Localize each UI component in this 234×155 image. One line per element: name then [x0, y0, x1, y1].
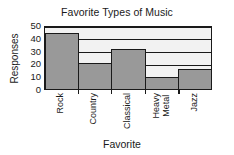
bar: [145, 77, 179, 89]
y-axis-tick-label: 20: [24, 59, 41, 69]
tick-mark: [111, 90, 112, 94]
y-axis-title: Responses: [9, 19, 20, 99]
x-axis-title: Favorite: [30, 138, 214, 150]
bar-series: [45, 27, 211, 89]
bar: [78, 63, 112, 89]
y-axis-tick-label: 40: [24, 34, 41, 44]
y-axis-tick-label: 50: [24, 21, 41, 31]
bar: [111, 49, 145, 89]
x-axis-tick-label: Rock: [56, 93, 66, 114]
x-axis-tick: Jazz: [178, 91, 212, 137]
chart-title: Favorite Types of Music: [0, 6, 234, 18]
plot-area: [44, 26, 212, 90]
x-axis-tick: Rock: [44, 91, 78, 137]
tick-mark: [78, 90, 79, 94]
tick-mark: [178, 90, 179, 94]
x-axis-tick-label: Jazz: [190, 93, 200, 112]
x-axis-tick-label: Heavy Metal: [152, 93, 171, 119]
x-axis-tick: Country: [78, 91, 112, 137]
x-axis-tick-label: Country: [89, 93, 99, 125]
y-axis-tick-label: 10: [24, 72, 41, 82]
x-axis-tick: Classical: [111, 91, 145, 137]
x-axis-tick-label: Classical: [123, 93, 133, 129]
bar: [178, 69, 212, 89]
tick-mark: [145, 90, 146, 94]
x-axis-tick-labels: RockCountryClassicalHeavy MetalJazz: [44, 91, 212, 137]
x-axis-tick: Heavy Metal: [145, 91, 179, 137]
y-axis-tick-label: 30: [24, 47, 41, 57]
y-axis-tick-label: 0: [24, 85, 41, 95]
bar: [45, 33, 79, 89]
y-axis-tick-labels: 01020304050: [24, 26, 41, 90]
bar-chart: Favorite Types of Music Responses 010203…: [0, 0, 234, 155]
